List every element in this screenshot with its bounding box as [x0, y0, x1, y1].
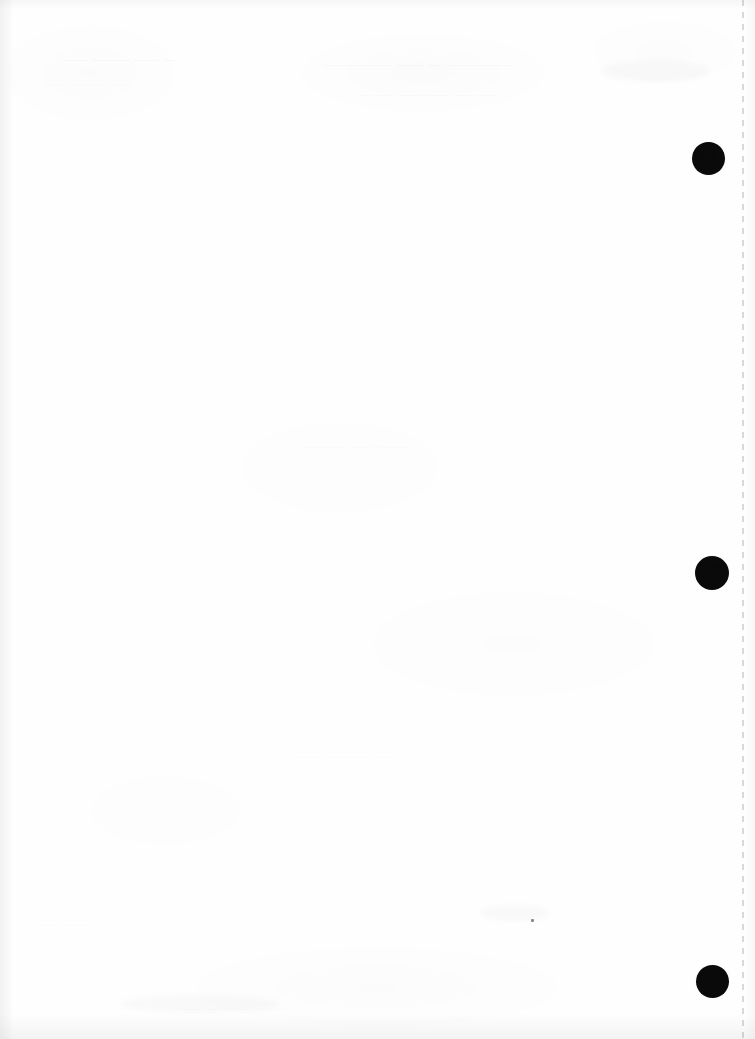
paper-surface [0, 0, 755, 1039]
punch-hole-top [692, 142, 725, 175]
punch-hole-middle [695, 556, 729, 590]
scanned-page: — —— ——— —— ————— — —— ————— ———— —— —— … [0, 0, 755, 1039]
punch-hole-bottom [696, 965, 729, 998]
